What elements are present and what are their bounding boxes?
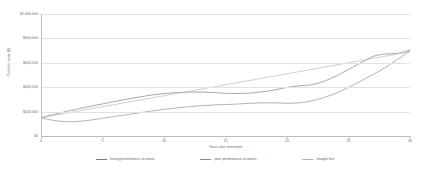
legend-label: poor performance at outset [214, 157, 256, 161]
x-tick-label: 5 [102, 139, 104, 143]
x-axis-title: Years after retirement [41, 145, 410, 149]
x-tick-label: 20 [285, 139, 289, 143]
legend-label: strong performance at outset [110, 157, 155, 161]
legend-item-strong-performance[interactable]: strong performance at outset [96, 157, 155, 161]
legend-item-straight-line[interactable]: straight line [302, 157, 334, 161]
gridline [41, 112, 410, 113]
plot-area [41, 14, 410, 136]
chart-container: Portfolio value ($) $1,000,000 $800,000 … [0, 0, 430, 174]
legend-item-poor-performance[interactable]: poor performance at outset [200, 157, 256, 161]
legend-swatch-icon [200, 159, 211, 160]
gridline [41, 38, 410, 39]
y-tick-label: $1,000,000 [10, 12, 38, 16]
legend-swatch-icon [96, 159, 107, 160]
y-tick-label: $400,000 [10, 85, 38, 89]
y-axis-line [41, 14, 42, 138]
gridline [41, 87, 410, 88]
x-tick-label: 10 [162, 139, 166, 143]
legend-swatch-icon [302, 159, 313, 160]
x-tick-label: 25 [347, 139, 351, 143]
y-axis-tick-labels: $1,000,000 $800,000 $600,000 $400,000 $2… [10, 0, 38, 174]
x-tick-label: 30 [408, 139, 412, 143]
series-lines [41, 14, 410, 136]
y-tick-label: $800,000 [10, 36, 38, 40]
y-tick-label: $200,000 [10, 110, 38, 114]
gridline [41, 63, 410, 64]
legend-label: straight line [316, 157, 334, 161]
x-tick-label: 15 [224, 139, 228, 143]
y-tick-label: $0 [10, 134, 38, 138]
series-line [41, 52, 410, 118]
chart-legend: strong performance at outset poor perfor… [0, 157, 430, 161]
gridline [41, 14, 410, 15]
y-tick-label: $600,000 [10, 61, 38, 65]
x-tick-label: 0 [40, 139, 42, 143]
